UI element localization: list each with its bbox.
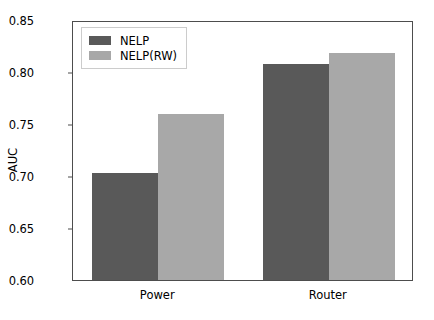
y-tick-label: 0.60 <box>9 274 34 288</box>
legend-item: NELP <box>89 33 177 48</box>
bar-nelprw-router <box>329 53 395 280</box>
legend-swatch-icon <box>89 51 111 60</box>
x-tick-label-router: Router <box>309 288 347 302</box>
bar-nelp-power <box>92 173 158 280</box>
y-axis-label: AUC <box>6 148 20 172</box>
legend-swatch-icon <box>89 36 111 45</box>
bar-nelp-router <box>263 64 329 280</box>
y-tick-label: 0.75 <box>9 118 34 132</box>
chart-legend: NELPNELP(RW) <box>81 27 187 69</box>
x-tick-label-power: Power <box>140 288 175 302</box>
legend-label: NELP(RW) <box>120 49 177 63</box>
y-tick-label: 0.80 <box>9 66 34 80</box>
bar-nelprw-power <box>158 114 224 280</box>
legend-item: NELP(RW) <box>89 48 177 63</box>
y-tick-label: 0.85 <box>9 14 34 28</box>
y-tick-label: 0.65 <box>9 222 34 236</box>
bar-chart-figure: 0.600.650.700.750.800.85 AUC NELPNELP(RW… <box>0 0 434 320</box>
legend-label: NELP <box>120 34 149 48</box>
